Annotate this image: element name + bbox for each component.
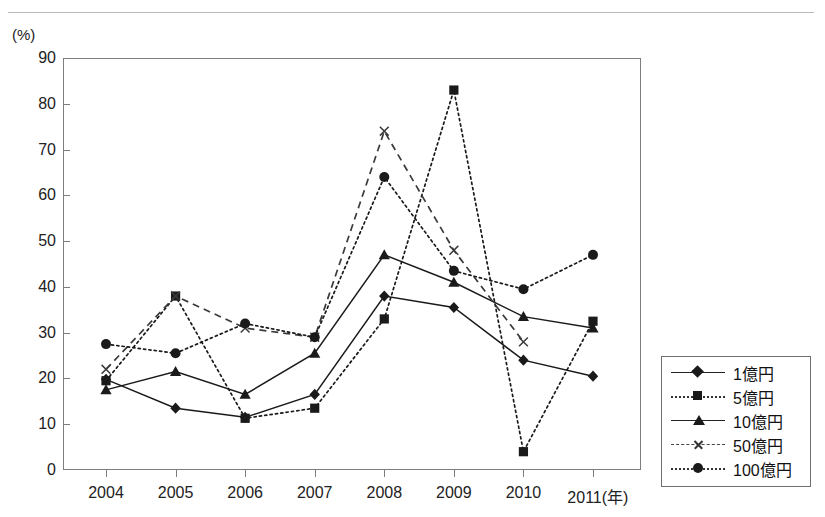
x-axis-tick-mark — [454, 470, 455, 477]
y-axis-tick-mark — [63, 378, 70, 379]
y-axis-tick-label: 70 — [12, 141, 56, 159]
x-axis-tick-mark — [245, 470, 246, 477]
legend-label: 100億円 — [733, 457, 792, 481]
y-axis-tick-labels: 0102030405060708090 — [8, 0, 56, 517]
chart-legend: 1億円5億円10億円50億円100億円 — [661, 356, 811, 487]
y-axis-tick-mark — [63, 104, 70, 105]
legend-label: 10億円 — [733, 409, 783, 433]
y-axis-tick-mark — [63, 287, 70, 288]
legend-marker-square-icon — [693, 391, 702, 400]
y-axis-tick-label: 40 — [12, 278, 56, 296]
legend-label: 5億円 — [733, 385, 774, 409]
y-axis-tick-label: 90 — [12, 49, 56, 67]
x-axis-tick-label: 2006 — [227, 484, 263, 502]
x-axis-tick-label: 2005 — [158, 484, 194, 502]
legend-sample-x-icon — [671, 436, 725, 454]
legend-sample-diamond-icon — [671, 364, 725, 382]
cut-off-header-text — [10, 0, 710, 10]
y-axis-tick-label: 20 — [12, 369, 56, 387]
legend-item-10億円[interactable]: 10億円 — [662, 409, 810, 433]
legend-label: 1億円 — [733, 361, 774, 385]
x-axis-tick-label: 2008 — [366, 484, 402, 502]
x-axis-tick-mark — [523, 470, 524, 477]
x-axis-tick-mark — [176, 470, 177, 477]
x-axis-tick-label: 2011(年) — [567, 484, 628, 508]
y-axis-tick-mark — [63, 195, 70, 196]
legend-item-50億円[interactable]: 50億円 — [662, 433, 810, 457]
plot-area — [63, 58, 641, 470]
chart-page: (%) 0102030405060708090 2004200520062007… — [0, 0, 825, 517]
y-axis-tick-label: 80 — [12, 95, 56, 113]
legend-marker-triangle-icon — [693, 415, 705, 425]
y-axis-tick-label: 30 — [12, 324, 56, 342]
legend-sample-square-icon — [671, 388, 725, 406]
legend-marker-x-icon — [693, 439, 704, 450]
y-axis-tick-label: 10 — [12, 415, 56, 433]
legend-label: 50億円 — [733, 433, 783, 457]
legend-marker-diamond-icon — [691, 365, 704, 378]
legend-item-1億円[interactable]: 1億円 — [662, 361, 810, 385]
y-axis-tick-label: 50 — [12, 232, 56, 250]
x-axis-tick-mark — [315, 470, 316, 477]
legend-marker-circle-icon — [693, 463, 703, 473]
legend-sample-triangle-icon — [671, 412, 725, 430]
y-axis-tick-label: 60 — [12, 186, 56, 204]
y-axis-tick-mark — [63, 241, 70, 242]
x-axis-tick-mark — [593, 470, 594, 477]
legend-item-100億円[interactable]: 100億円 — [662, 457, 810, 481]
legend-sample-circle-icon — [671, 460, 725, 478]
x-axis-tick-label: 2010 — [506, 484, 542, 502]
y-axis-tick-mark — [63, 150, 70, 151]
x-axis-tick-label: 2004 — [88, 484, 124, 502]
y-axis-tick-label: 0 — [12, 461, 56, 479]
y-axis-tick-mark — [63, 333, 70, 334]
y-axis-tick-mark — [63, 424, 70, 425]
x-axis-tick-mark — [384, 470, 385, 477]
x-axis-tick-label: 2007 — [297, 484, 333, 502]
legend-item-5億円[interactable]: 5億円 — [662, 385, 810, 409]
x-axis-tick-mark — [106, 470, 107, 477]
header-divider — [8, 12, 814, 13]
x-axis-tick-label: 2009 — [436, 484, 472, 502]
